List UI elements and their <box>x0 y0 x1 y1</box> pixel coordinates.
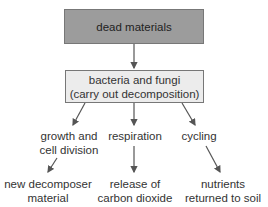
decomposers-box: bacteria and fungi (carry out decomposit… <box>65 70 204 103</box>
co2-label: release of carbon dioxide <box>98 177 173 205</box>
decomposers-label: bacteria and fungi <box>89 73 180 87</box>
arrow-cycling-to-nutrients <box>206 146 220 172</box>
decomposers-sublabel: (carry out decomposition) <box>70 87 200 101</box>
arrow-to-cycling <box>182 103 195 125</box>
arrow-growth-to-material <box>48 158 57 172</box>
new-material-label: new decomposer material <box>4 177 92 205</box>
cycling-label: cycling <box>181 129 216 143</box>
respiration-label: respiration <box>108 129 162 143</box>
nutrients-label: nutrients returned to soil <box>185 177 261 205</box>
dead-materials-box: dead materials <box>64 9 204 44</box>
dead-materials-label: dead materials <box>96 20 171 34</box>
growth-label: growth and cell division <box>40 129 99 157</box>
arrow-to-growth <box>73 103 85 125</box>
